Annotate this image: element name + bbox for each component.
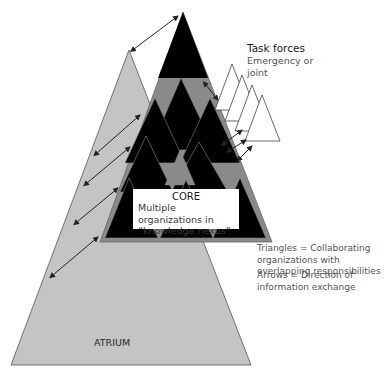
legend-arrows: Arrows = Direction of information exchan…: [257, 270, 389, 293]
task-forces-subtitle: Emergency or joint: [247, 55, 317, 79]
atrium-label: ATRIUM: [94, 337, 130, 348]
core-subtitle: Multiple organizations in “knowledge nex…: [133, 202, 239, 237]
core-label-box: CORE Multiple organizations in “knowledg…: [133, 189, 239, 229]
task-forces-title: Task forces: [247, 42, 305, 54]
core-title: CORE: [133, 191, 239, 202]
organization-triangle-top: [158, 12, 208, 78]
